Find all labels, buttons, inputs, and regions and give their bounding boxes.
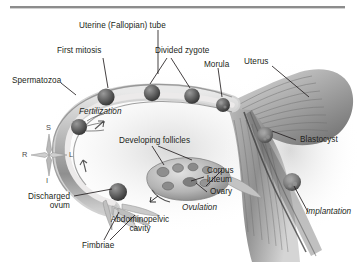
divided-zygote-4cell: [184, 88, 200, 104]
label-spermatozoa: Spermatozoa: [12, 76, 61, 86]
label-abdominopelvic-line2: cavity: [103, 224, 177, 234]
blastocyst-cell: [257, 127, 273, 143]
label-ovulation: Ovulation: [182, 203, 217, 213]
label-uterus: Uterus: [244, 57, 268, 67]
label-blastocyst: Blastocyst: [300, 135, 338, 145]
label-morula: Morula: [204, 60, 229, 70]
label-uterine-tube: Uterine (Fallopian) tube: [79, 21, 166, 31]
label-developing-follicles: Developing follicles: [119, 136, 190, 146]
label-corpus-luteum-line2: luteum: [207, 175, 232, 185]
label-fimbriae: Fimbriae: [82, 241, 114, 251]
compass-superior-label: S: [46, 123, 51, 132]
compass-left-label: L: [69, 150, 73, 159]
compass-inferior-label: I: [46, 176, 48, 185]
compass-right-label: R: [22, 150, 27, 159]
divided-zygote-2cell: [144, 85, 160, 101]
anatomy-illustration: [0, 0, 361, 265]
label-ovary: Ovary: [210, 187, 232, 197]
discharged-ovum: [109, 183, 127, 201]
label-divided-zygote: Divided zygote: [155, 46, 209, 56]
label-discharged-ovum-line2: ovum: [0, 201, 70, 211]
label-fertilization: Fertilization: [79, 107, 122, 117]
label-first-mitosis: First mitosis: [57, 46, 101, 56]
spermatozoa-cluster: [71, 119, 87, 135]
label-implantation: Implantation: [306, 207, 351, 217]
fertilization-implantation-figure: Uterine (Fallopian) tube First mitosis D…: [0, 0, 361, 265]
implanting-blastocyst: [283, 173, 301, 191]
top-rule: [10, 6, 345, 8]
first-mitosis-cell: [97, 88, 114, 105]
morula-cell: [216, 98, 230, 112]
